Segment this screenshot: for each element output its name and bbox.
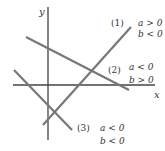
line-3-cond-b: b < 0	[100, 136, 125, 146]
line-1-number: (1)	[111, 18, 124, 28]
line-3-number: (3)	[77, 123, 90, 133]
line-3-cond-a: a < 0	[100, 123, 125, 133]
line-sign-diagram: y x (1) a > 0 b < 0 (2) a < 0 b > 0 (3) …	[0, 0, 165, 151]
line-2-cond-b: b > 0	[129, 75, 154, 85]
line-2-number: (2)	[108, 65, 121, 75]
line-2-cond-a: a < 0	[129, 62, 154, 72]
line-1-cond-a: a > 0	[138, 18, 163, 28]
x-axis-label: x	[154, 89, 160, 100]
line-1-cond-b: b < 0	[138, 29, 163, 39]
y-axis-label: y	[38, 6, 45, 17]
line-3	[14, 70, 72, 130]
line-1	[43, 27, 131, 125]
